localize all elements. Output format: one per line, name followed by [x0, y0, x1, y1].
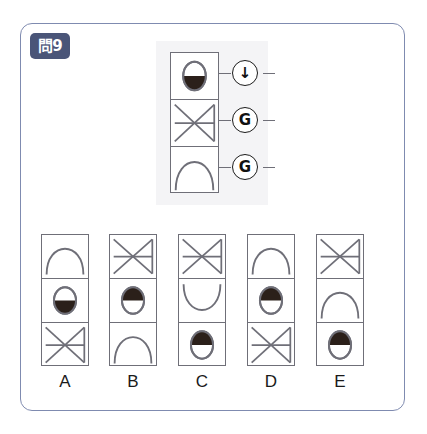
option-d-cell-3: [248, 323, 294, 367]
option-a-label: A: [41, 372, 89, 392]
option-b-cell-2: [110, 279, 156, 323]
answer-options: A B C D: [41, 234, 389, 394]
operator-lead-right: [263, 120, 275, 121]
operator-2: G: [219, 105, 275, 135]
shape-glyph: [179, 323, 225, 367]
stimulus-cell-3: [171, 147, 218, 194]
option-b[interactable]: B: [109, 234, 157, 392]
shape-glyph: [42, 323, 88, 367]
operator-lead-left: [219, 167, 231, 168]
shape-glyph: [317, 235, 363, 278]
option-a-column: [41, 234, 89, 366]
option-b-cell-1: [110, 235, 156, 279]
shape-glyph: [42, 235, 88, 278]
shape-glyph: [317, 279, 363, 322]
operator-lead-right: [263, 73, 275, 74]
option-a-cell-3: [42, 323, 88, 367]
option-c-cell-3: [179, 323, 225, 367]
option-c[interactable]: C: [178, 234, 226, 392]
g-operator-icon: G: [232, 154, 258, 180]
option-d[interactable]: D: [247, 234, 295, 392]
option-c-cell-2: [179, 279, 225, 323]
option-b-label: B: [109, 372, 157, 392]
option-e[interactable]: E: [316, 234, 364, 392]
option-c-label: C: [178, 372, 226, 392]
operator-3: G: [219, 152, 275, 182]
option-e-label: E: [316, 372, 364, 392]
shape-glyph: [42, 279, 88, 322]
shape-glyph: [171, 53, 218, 99]
g-operator-icon: G: [232, 107, 258, 133]
option-e-column: [316, 234, 364, 366]
option-b-column: [109, 234, 157, 366]
shape-glyph: [171, 147, 218, 194]
shape-glyph: [248, 323, 294, 367]
stimulus-cell-2: [171, 100, 218, 147]
option-a-cell-2: [42, 279, 88, 323]
option-b-cell-3: [110, 323, 156, 367]
stimulus-column: [170, 52, 219, 193]
down-arrow-icon: ↓: [232, 60, 258, 86]
option-e-cell-3: [317, 323, 363, 367]
shape-glyph: [248, 279, 294, 322]
stimulus-cell-1: [171, 53, 218, 100]
shape-glyph: [110, 235, 156, 278]
shape-glyph: [317, 323, 363, 367]
shape-glyph: [171, 100, 218, 146]
question-number-badge: 問9: [30, 33, 70, 59]
shape-glyph: [110, 279, 156, 322]
option-e-cell-2: [317, 279, 363, 323]
option-e-cell-1: [317, 235, 363, 279]
operator-lead-right: [263, 167, 275, 168]
question-page: 問9 ↓ G G A: [0, 0, 427, 434]
option-c-column: [178, 234, 226, 366]
option-a-cell-1: [42, 235, 88, 279]
operator-1: ↓: [219, 58, 275, 88]
option-c-cell-1: [179, 235, 225, 279]
option-a[interactable]: A: [41, 234, 89, 392]
shape-glyph: [179, 235, 225, 278]
operator-lead-left: [219, 120, 231, 121]
shape-glyph: [110, 323, 156, 367]
option-d-cell-2: [248, 279, 294, 323]
option-d-label: D: [247, 372, 295, 392]
shape-glyph: [179, 279, 225, 322]
option-d-column: [247, 234, 295, 366]
shape-glyph: [248, 235, 294, 278]
operator-lead-left: [219, 73, 231, 74]
option-d-cell-1: [248, 235, 294, 279]
